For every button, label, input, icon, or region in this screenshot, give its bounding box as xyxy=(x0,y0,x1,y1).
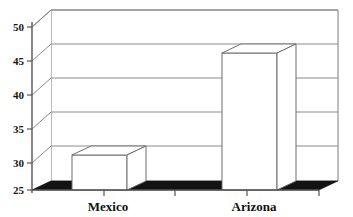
x-axis xyxy=(32,190,319,196)
x-axis-category-labels: Mexico Arizona xyxy=(88,199,277,214)
y-tick-label-50: 50 xyxy=(13,21,25,33)
category-label-arizona: Arizona xyxy=(232,199,277,214)
bar-arizona[interactable] xyxy=(222,44,296,190)
category-label-mexico: Mexico xyxy=(88,199,128,214)
y-axis-tick-labels: 50 45 40 35 30 25 xyxy=(13,21,25,196)
y-tick-label-25: 25 xyxy=(13,184,25,196)
y-tick-label-30: 30 xyxy=(13,157,25,169)
y-tick-label-40: 40 xyxy=(13,89,25,101)
chart-canvas: 50 45 40 35 30 25 Mexico Arizona xyxy=(0,0,353,217)
bar-mexico[interactable] xyxy=(72,146,146,190)
bar-chart-figure: 50 45 40 35 30 25 Mexico Arizona xyxy=(0,0,353,217)
plot-left-wall xyxy=(32,10,51,190)
y-tick-label-45: 45 xyxy=(13,55,25,67)
y-axis xyxy=(27,22,32,193)
y-tick-label-35: 35 xyxy=(13,123,25,135)
